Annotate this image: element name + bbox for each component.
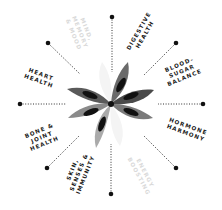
dot-top-left xyxy=(46,41,51,46)
dot-top-right xyxy=(174,41,179,46)
dot-bottom-left xyxy=(45,166,50,171)
flower-center xyxy=(108,101,114,107)
dot-bottom-right xyxy=(174,166,179,171)
dot-left xyxy=(18,102,23,107)
dot-top xyxy=(110,15,115,20)
flower-icon xyxy=(67,62,154,148)
wellness-wheel-diagram: MIND, MEMORY & MOOD DIGESTIVE HEALTH BLO… xyxy=(0,0,222,210)
dot-bottom xyxy=(109,192,114,197)
dot-right xyxy=(201,102,206,107)
diagram-graphics xyxy=(0,0,222,210)
